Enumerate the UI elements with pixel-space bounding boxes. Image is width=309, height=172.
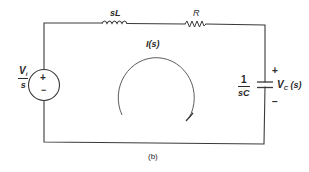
inductor-label: sL bbox=[110, 9, 121, 18]
source-plus-sign: + bbox=[40, 73, 46, 83]
inductor-symbol bbox=[102, 21, 127, 24]
wire-bottom bbox=[44, 87, 265, 144]
wire-left-top bbox=[44, 23, 102, 69]
capacitor-label-den: sC bbox=[238, 87, 250, 98]
resistor-label: R bbox=[193, 9, 200, 18]
figure-caption: (b) bbox=[148, 153, 158, 161]
source-label-den: s bbox=[21, 79, 26, 90]
source-label-sub: i bbox=[26, 71, 28, 77]
wire-top-middle bbox=[127, 24, 185, 25]
capacitor-impedance-label: 1 sC bbox=[238, 75, 250, 98]
capacitor-label-num: 1 bbox=[240, 75, 248, 86]
loop-current-arc bbox=[118, 58, 194, 118]
capacitor-voltage-arg: (s) bbox=[288, 80, 302, 90]
capacitor-voltage-label: VC (s) bbox=[277, 80, 302, 91]
wire-right-top bbox=[206, 24, 265, 82]
source-label-num: V bbox=[19, 65, 26, 76]
resistor-symbol bbox=[185, 21, 206, 27]
loop-current-label: I(s) bbox=[146, 40, 160, 49]
source-minus-sign: − bbox=[41, 86, 46, 95]
capacitor-plus-sign: + bbox=[272, 66, 278, 76]
capacitor-voltage-v: V bbox=[277, 79, 284, 90]
capacitor-minus-sign: − bbox=[272, 97, 278, 107]
source-label: Vi s bbox=[18, 66, 28, 90]
circuit-diagram bbox=[0, 0, 309, 172]
loop-current-arrowhead-icon bbox=[186, 113, 193, 121]
